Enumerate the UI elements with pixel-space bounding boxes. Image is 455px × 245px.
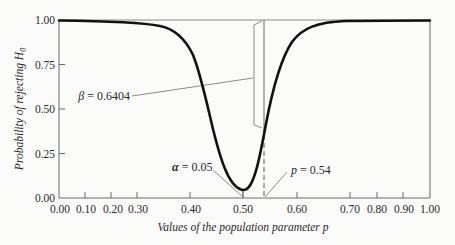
- x-tick-label: 0.10: [76, 203, 96, 215]
- x-tick-label: 1.00: [420, 203, 440, 215]
- y-axis-title: Probability of rejecting H0: [13, 48, 28, 171]
- power-curve-chart: 1.00 0.75 0.50 0.25 0.00 0.00 0.10 0.20 …: [0, 0, 455, 245]
- beta-bracket: [254, 21, 262, 128]
- x-tick-label: 0.00: [50, 203, 70, 215]
- p-label: p= 0.54: [290, 163, 331, 177]
- x-tick-label: 0.90: [394, 203, 414, 215]
- x-tick-label: 0.30: [128, 203, 148, 215]
- y-ticks: [59, 65, 65, 154]
- x-ticks: [85, 192, 403, 198]
- x-tick-labels: 0.00 0.10 0.20 0.30 0.40 0.50 0.60 0.70 …: [50, 203, 440, 215]
- x-tick-label: 0.60: [287, 203, 307, 215]
- alpha-label: α= 0.05: [172, 160, 212, 174]
- y-tick-labels: 1.00 0.75 0.50 0.25 0.00: [35, 14, 55, 204]
- x-tick-label: 0.50: [233, 203, 253, 215]
- y-tick-label: 0.25: [35, 148, 55, 160]
- x-axis-title: Values of the population parameter p: [158, 221, 329, 234]
- x-tick-label: 0.20: [103, 203, 123, 215]
- beta-leader-line: [132, 78, 253, 96]
- y-tick-label: 0.50: [35, 103, 55, 115]
- beta-label: β= 0.6404: [77, 89, 130, 103]
- y-tick-label: 1.00: [35, 14, 55, 26]
- y-tick-label: 0.75: [35, 59, 55, 71]
- x-tick-label: 0.80: [367, 203, 387, 215]
- power-curve: [59, 21, 430, 191]
- x-tick-label: 0.40: [181, 203, 201, 215]
- p-leader-line: [265, 172, 287, 197]
- x-tick-label: 0.70: [340, 203, 360, 215]
